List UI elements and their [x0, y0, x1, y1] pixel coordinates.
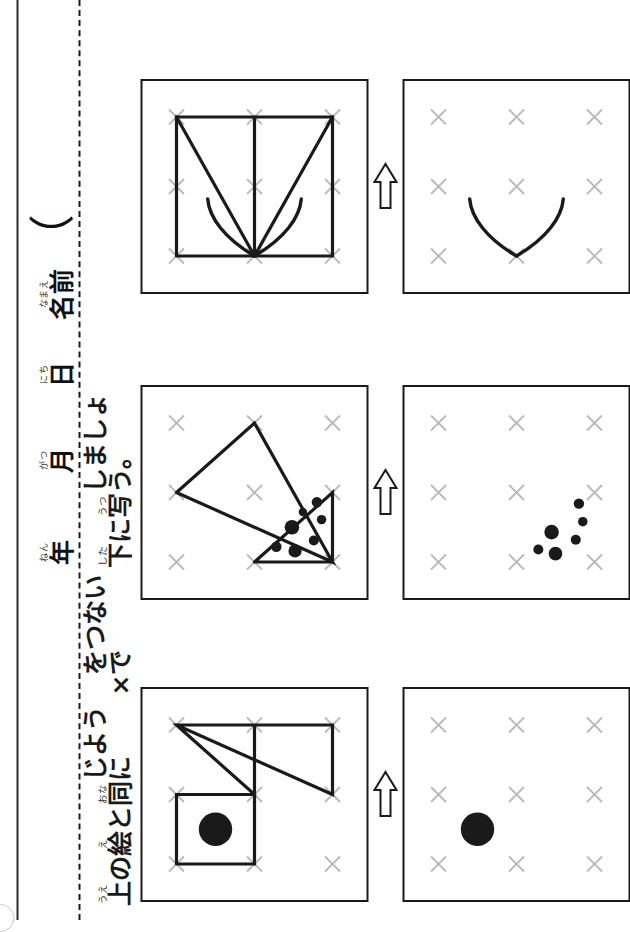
- x-mark: [431, 857, 446, 872]
- dot: [573, 498, 583, 508]
- dot: [288, 544, 301, 557]
- x-mark: [431, 485, 446, 500]
- puzzle-column-puzzle-3: [140, 26, 610, 294]
- x-mark: [431, 718, 446, 733]
- x-mark: [169, 416, 184, 431]
- x-mark: [509, 179, 524, 194]
- dot: [271, 541, 281, 551]
- instruction-kana: しましょう。: [82, 366, 132, 493]
- x-mark: [325, 857, 340, 872]
- answer-grid-puzzle-1: [404, 689, 628, 900]
- x-mark: [587, 857, 602, 872]
- header-field-day[interactable]: にち 日: [39, 361, 74, 387]
- model-grid-puzzle-1: [142, 689, 366, 900]
- ray-down-right: [254, 117, 332, 256]
- dot: [548, 547, 562, 561]
- model-box-puzzle-3: [140, 79, 368, 294]
- x-mark: [431, 110, 446, 125]
- x-mark: [587, 485, 602, 500]
- header-field-name[interactable]: なまえ 名前: [39, 268, 74, 320]
- kanji-day: 日: [49, 361, 74, 387]
- header-field-year[interactable]: ねん 年: [39, 539, 74, 565]
- instruction-ruby-word: え絵: [97, 831, 133, 856]
- copy-arrow: [372, 162, 398, 210]
- instruction-kanji: 上: [107, 881, 132, 906]
- copy-arrow: [372, 468, 398, 516]
- x-mark: [587, 179, 602, 194]
- x-mark: [431, 787, 446, 802]
- answer-grid-puzzle-2: [404, 387, 628, 598]
- puzzle-column-puzzle-2: [140, 332, 610, 600]
- ray-up-right: [176, 117, 254, 256]
- x-mark: [587, 555, 602, 570]
- puzzle-column-puzzle-1: [140, 634, 610, 902]
- kanji-year: 年: [49, 539, 74, 565]
- large-dot: [198, 813, 231, 846]
- upper-curve: [207, 199, 254, 256]
- dot: [316, 515, 325, 524]
- dot: [298, 508, 306, 516]
- x-mark: [509, 110, 524, 125]
- answer-box-puzzle-3[interactable]: [402, 79, 630, 294]
- upper-curve: [469, 199, 516, 256]
- instruction-kanji: 絵: [107, 831, 132, 856]
- x-mark: [509, 485, 524, 500]
- instruction-ruby-word: うえ上: [97, 881, 133, 906]
- header-fields: ねん 年 がつ 月 にち 日 なまえ 名前 （: [24, 0, 76, 920]
- x-mark: [587, 249, 602, 264]
- instruction-kanji: 下: [107, 543, 132, 568]
- x-mark: [509, 787, 524, 802]
- instruction-ruby-word: した下: [97, 543, 133, 568]
- x-mark: [431, 179, 446, 194]
- x-mark: [431, 555, 446, 570]
- model-grid-puzzle-2: [142, 387, 366, 598]
- x-mark: [509, 718, 524, 733]
- instruction-kana: に: [107, 518, 132, 543]
- model-grid-puzzle-3: [142, 81, 366, 292]
- x-mark: [509, 555, 524, 570]
- instruction-ruby-word: おな同: [97, 781, 133, 806]
- kanji-month: 月: [49, 447, 74, 473]
- header-field-month[interactable]: がつ 月: [39, 447, 74, 473]
- dot: [578, 517, 587, 526]
- instruction-kana: じように: [82, 695, 132, 781]
- x-mark: [509, 857, 524, 872]
- x-mark: [431, 249, 446, 264]
- x-mark: [431, 416, 446, 431]
- dot: [570, 535, 580, 545]
- copy-arrow: [372, 770, 398, 818]
- x-mark: [169, 555, 184, 570]
- instruction-ruby-word: うつ写: [97, 493, 133, 518]
- dot: [544, 525, 559, 540]
- x-mark: [587, 718, 602, 733]
- name-parenthesis: （: [14, 214, 80, 260]
- instruction-kana: と: [107, 806, 132, 831]
- instruction-kana: の: [107, 856, 132, 881]
- kanji-name: 名前: [49, 268, 74, 320]
- model-box-puzzle-1: [140, 687, 368, 902]
- corner-circle-mark: [0, 904, 14, 932]
- model-box-puzzle-2: [140, 385, 368, 600]
- instruction-kana: をつないで: [82, 568, 132, 674]
- dot: [533, 544, 543, 554]
- x-mark: [587, 787, 602, 802]
- x-mark: [247, 485, 262, 500]
- large-dot: [460, 813, 493, 846]
- instruction-kana: ×: [107, 675, 132, 696]
- x-mark: [587, 416, 602, 431]
- dot: [311, 497, 321, 507]
- dot: [308, 535, 318, 545]
- lower-curve: [516, 199, 563, 256]
- x-mark: [509, 416, 524, 431]
- answer-box-puzzle-1[interactable]: [402, 687, 630, 902]
- x-mark: [587, 110, 602, 125]
- instruction-kanji: 同: [107, 781, 132, 806]
- x-mark: [325, 416, 340, 431]
- instruction-line: うえ上のえ絵とおな同じように × をつないでした下にうつ写しましょう。: [92, 366, 132, 906]
- instruction-text: うえ上のえ絵とおな同じように × をつないでした下にうつ写しましょう。: [82, 366, 132, 906]
- instruction-kanji: 写: [107, 493, 132, 518]
- answer-box-puzzle-2[interactable]: [402, 385, 630, 600]
- zigzag-triangle: [176, 725, 332, 795]
